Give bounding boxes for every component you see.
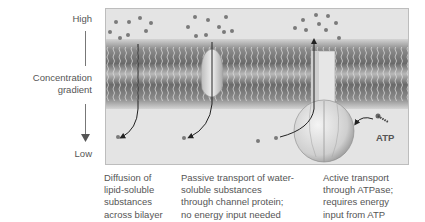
gradient-arrowhead-icon (81, 134, 90, 142)
gradient-title-line1: Concentration (0, 72, 92, 84)
high-label: High (72, 13, 92, 24)
caption-line: across bilayer (104, 209, 174, 221)
caption-line: substances (104, 196, 174, 208)
atp-molecule-icon (376, 114, 389, 123)
caption-line: through channel protein; (181, 196, 301, 208)
caption-line: requires energy (323, 196, 413, 208)
caption-line: soluble substances (181, 184, 301, 196)
low-label: Low (75, 148, 92, 159)
caption-line: Passive transport of water- (181, 172, 301, 184)
caption-active-transport: Active transport through ATPase; require… (323, 172, 413, 221)
atp-energy-arrow (356, 118, 373, 123)
membrane-illustration: ATP (106, 9, 408, 164)
caption-line: through ATPase; (323, 184, 413, 196)
caption-lipid-diffusion: Diffusion of lipid-soluble substances ac… (104, 172, 174, 221)
caption-line: input from ATP (323, 209, 413, 221)
caption-line: lipid-soluble (104, 184, 174, 196)
caption-line: Active transport (323, 172, 413, 184)
caption-passive-transport: Passive transport of water- soluble subs… (181, 172, 301, 221)
caption-line: Diffusion of (104, 172, 174, 184)
caption-line: no energy input needed (181, 209, 301, 221)
gradient-title-line2: gradient (0, 84, 92, 96)
concentration-gradient-label: Concentration gradient (0, 72, 92, 96)
atp-label: ATP (376, 132, 395, 143)
gradient-line-top (85, 31, 86, 66)
gradient-line-bottom (85, 104, 86, 138)
membrane-diagram-panel: ATP (105, 8, 409, 165)
